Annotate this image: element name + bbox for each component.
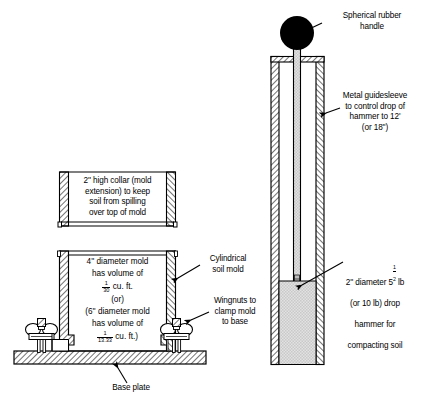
- mold-label-line3: (6'' diameter mold: [68, 306, 167, 318]
- wingnuts-label: Wingnuts to clamp mold to base: [206, 296, 264, 328]
- hammer-label-line3: hammer for: [331, 320, 419, 331]
- spherical-rubber-handle-label: Spherical rubber handle: [325, 11, 419, 32]
- hammer-label-line2: (or 10 lb) drop: [331, 299, 419, 310]
- proctor-compaction-diagram: 2'' high collar (mold extension) to keep…: [0, 0, 422, 417]
- metal-guidesleeve-label: Metal guidesleeve to control drop of ham…: [330, 91, 420, 133]
- mold-label-line1: 4'' diameter mold: [68, 256, 167, 268]
- fraction-denominator: 13.33: [97, 338, 113, 344]
- base-plate-label: Base plate: [100, 383, 162, 394]
- compacted-soil: [279, 281, 316, 365]
- spherical-rubber-handle: [280, 16, 314, 50]
- cylindrical-soil-mold-label: Cylindrical soil mold: [189, 254, 267, 275]
- mold-volume-label: 4'' diameter mold has volume of 1 30 cu.…: [68, 256, 167, 344]
- mold-label-or: (or): [68, 294, 167, 306]
- hammer-rod: [294, 47, 301, 295]
- base-plate: [14, 351, 206, 364]
- mold-units-2: cu. ft.): [115, 332, 138, 341]
- fraction-numerator: 1: [393, 265, 396, 271]
- drop-hammer-label: 2'' diameter 5 1 2 lb (or 10 lb) drop ha…: [331, 239, 419, 363]
- hammer-label-line4: compacting soil: [331, 341, 419, 352]
- hammer-label-line1: 2'' diameter 5 1 2 lb: [331, 250, 419, 289]
- fraction-one-thirtieth: 1 30: [102, 281, 110, 293]
- fraction-denominator: 30: [102, 288, 110, 294]
- collar-label: 2'' high collar (mold extension) to keep…: [62, 176, 173, 218]
- mold-units-1: cu. ft.: [113, 282, 133, 291]
- mold-volume-fraction-1: 1 30 cu. ft.: [68, 281, 167, 294]
- fraction-one-thirteen-thirtythree: 1 13.33: [97, 331, 113, 343]
- mold-label-line2: has volume of: [68, 268, 167, 280]
- mold-volume-fraction-2: 1 13.33 cu. ft.): [68, 331, 167, 344]
- hammer-label-prefix: 2'' diameter 5: [346, 278, 393, 287]
- mold-label-line4: has volume of: [68, 318, 167, 330]
- hammer-label-suffix: lb: [396, 278, 404, 287]
